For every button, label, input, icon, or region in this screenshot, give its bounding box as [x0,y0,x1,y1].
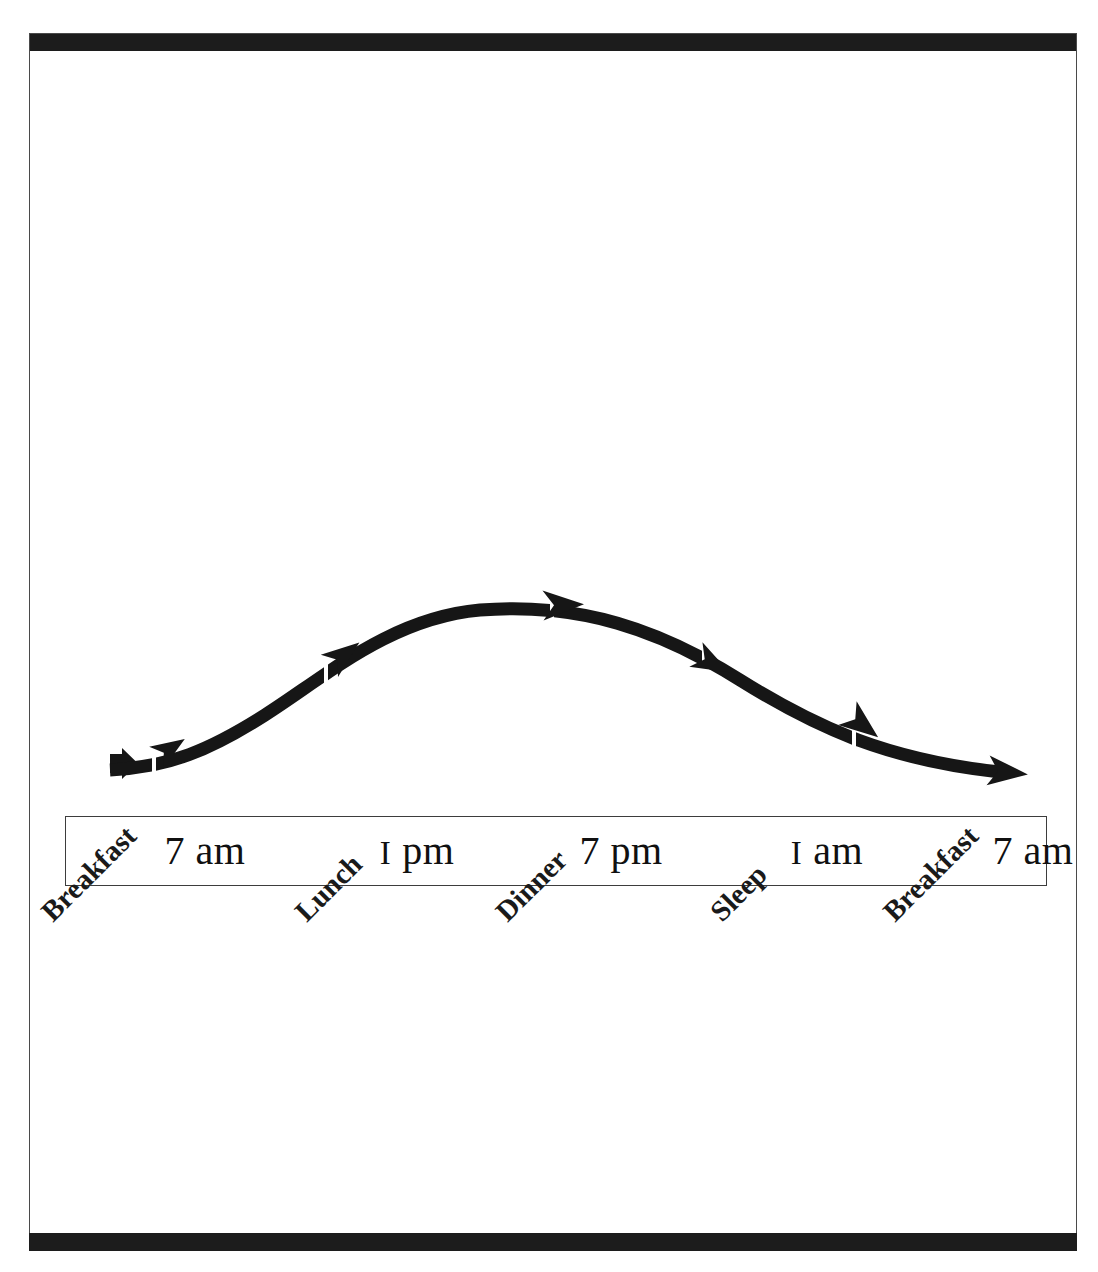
circadian-diagram: 7 am I pm 7 pm I am 7 am Breakfast Lunch [0,0,1098,1272]
time-label-text: 7 am [165,828,246,873]
event-label-breakfast-end: Breakfast [900,895,1020,928]
circadian-curve [60,560,1040,830]
time-label-text: am [803,828,863,873]
event-label-dinner: Dinner [513,895,600,928]
time-label-text: pm [392,828,455,873]
time-label-7am-end: 7 am [993,816,1074,886]
figure-page: 7 am I pm 7 pm I am 7 am Breakfast Lunch [0,0,1098,1272]
time-label-1pm: I pm [380,816,455,886]
event-label-sleep: Sleep [727,895,793,928]
curve-segment-6 [110,609,1000,772]
event-label-breakfast-start: Breakfast [58,895,178,928]
event-label-lunch: Lunch [312,895,393,928]
event-labels: Breakfast Lunch Dinner Sleep Breakfast [0,895,1098,1035]
time-label-text: 7 pm [579,828,662,873]
time-label-1am: I am [791,816,863,886]
time-label-7am-start: 7 am [165,816,246,886]
time-label-7pm: 7 pm [579,816,662,886]
time-label-one-glyph: I [791,835,803,871]
time-label-text: 7 am [993,828,1074,873]
time-label-one-glyph: I [380,835,392,871]
